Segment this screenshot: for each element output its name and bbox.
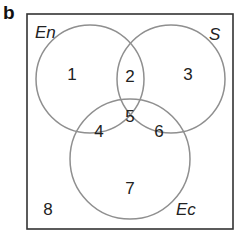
region-1: 1 [67,65,76,84]
region-3: 3 [183,65,192,84]
region-2: 2 [125,67,134,86]
set-label-s: S [209,25,221,44]
region-8: 8 [43,200,52,219]
region-7: 7 [125,179,134,198]
set-label-ec: Ec [176,200,196,219]
region-6: 6 [154,122,163,141]
set-label-en: En [35,23,56,42]
venn-diagram: En S Ec 1 2 3 4 5 6 7 8 [0,0,237,240]
region-4: 4 [94,122,103,141]
region-5: 5 [125,107,134,126]
